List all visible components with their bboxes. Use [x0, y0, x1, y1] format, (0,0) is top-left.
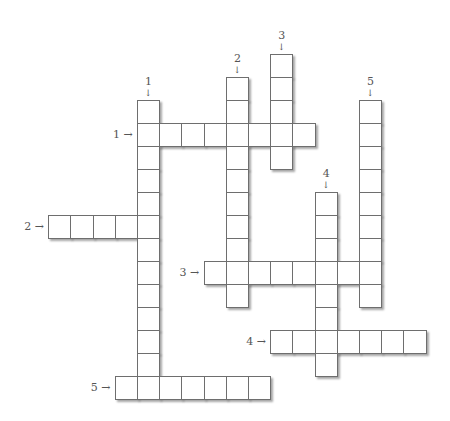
crossword-cell-input[interactable]: [270, 77, 293, 101]
crossword-cell-input[interactable]: [137, 238, 160, 262]
crossword-cell-input[interactable]: [359, 100, 382, 124]
crossword-cell-input[interactable]: [315, 284, 338, 308]
crossword-cell-input[interactable]: [137, 330, 160, 354]
crossword-cell-input[interactable]: [226, 169, 249, 193]
crossword-cell-input[interactable]: [159, 123, 182, 147]
crossword-cell-input[interactable]: [93, 215, 116, 239]
crossword-cell-input[interactable]: [204, 376, 227, 400]
crossword-cell-input[interactable]: [70, 215, 93, 239]
crossword-cell-input[interactable]: [270, 123, 293, 147]
crossword-cell-input[interactable]: [115, 215, 138, 239]
crossword-cell-input[interactable]: [137, 284, 160, 308]
down-arrow-icon: ↓: [233, 66, 241, 75]
across-clue-number-1: 1 →: [113, 129, 133, 140]
crossword-cell-input[interactable]: [359, 215, 382, 239]
crossword-cell-input[interactable]: [226, 192, 249, 216]
crossword-cell-input[interactable]: [204, 123, 227, 147]
down-arrow-icon: ↓: [145, 89, 153, 98]
crossword-cell-input[interactable]: [359, 238, 382, 262]
crossword-cell-input[interactable]: [48, 215, 71, 239]
across-clue-number-4: 4 →: [246, 336, 266, 347]
crossword-cell-input[interactable]: [315, 353, 338, 377]
crossword-cell-input[interactable]: [137, 353, 160, 377]
crossword-cell-input[interactable]: [315, 261, 338, 285]
crossword-cell-input[interactable]: [359, 284, 382, 308]
across-clue-number-3: 3 →: [180, 267, 200, 278]
crossword-cell-input[interactable]: [226, 146, 249, 170]
down-clue-number-1: 1: [145, 76, 152, 87]
crossword-cell-input[interactable]: [270, 146, 293, 170]
crossword-cell-input[interactable]: [137, 376, 160, 400]
across-clue-number-5: 5 →: [91, 382, 111, 393]
crossword-cell-input[interactable]: [359, 146, 382, 170]
crossword-cell-input[interactable]: [337, 261, 360, 285]
crossword-cell-input[interactable]: [181, 376, 204, 400]
crossword-cell-input[interactable]: [137, 307, 160, 331]
crossword-cell-input[interactable]: [315, 307, 338, 331]
crossword-cell-input[interactable]: [248, 261, 271, 285]
crossword-cell-input[interactable]: [359, 169, 382, 193]
crossword-cell-input[interactable]: [226, 284, 249, 308]
crossword-cell-input[interactable]: [137, 261, 160, 285]
crossword-cell-input[interactable]: [359, 192, 382, 216]
crossword-cell-input[interactable]: [359, 261, 382, 285]
crossword-cell-input[interactable]: [226, 123, 249, 147]
down-arrow-icon: ↓: [367, 89, 375, 98]
crossword-cell-input[interactable]: [137, 169, 160, 193]
crossword-cell-input[interactable]: [315, 330, 338, 354]
crossword-cell-input[interactable]: [292, 261, 315, 285]
crossword-cell-input[interactable]: [337, 330, 360, 354]
crossword-cell-input[interactable]: [137, 192, 160, 216]
down-arrow-icon: ↓: [278, 43, 286, 52]
crossword-cell-input[interactable]: [137, 100, 160, 124]
crossword-cell-input[interactable]: [181, 123, 204, 147]
crossword-cell-input[interactable]: [204, 261, 227, 285]
crossword-cell-input[interactable]: [403, 330, 426, 354]
crossword-cell-input[interactable]: [359, 123, 382, 147]
across-clue-number-2: 2 →: [24, 221, 44, 232]
crossword-cell-input[interactable]: [270, 54, 293, 78]
crossword-cell-input[interactable]: [270, 330, 293, 354]
crossword-cell-input[interactable]: [226, 376, 249, 400]
crossword-cell-input[interactable]: [159, 376, 182, 400]
crossword-cell-input[interactable]: [248, 376, 271, 400]
crossword-cell-input[interactable]: [248, 123, 271, 147]
crossword-cell-input[interactable]: [292, 123, 315, 147]
down-clue-number-3: 3: [278, 30, 285, 41]
crossword-cell-input[interactable]: [226, 100, 249, 124]
down-clue-number-2: 2: [234, 53, 241, 64]
down-clue-number-4: 4: [323, 168, 330, 179]
crossword-cell-input[interactable]: [137, 146, 160, 170]
crossword-cell-input[interactable]: [315, 215, 338, 239]
crossword-cell-input[interactable]: [137, 123, 160, 147]
crossword-cell-input[interactable]: [315, 238, 338, 262]
crossword-cell-input[interactable]: [270, 100, 293, 124]
crossword-cell-input[interactable]: [381, 330, 404, 354]
crossword-board: 1 →2 →3 →4 →5 →1↓2↓3↓4↓5↓: [0, 0, 450, 421]
crossword-cell-input[interactable]: [359, 330, 382, 354]
crossword-cell-input[interactable]: [292, 330, 315, 354]
crossword-cell-input[interactable]: [226, 238, 249, 262]
crossword-cell-input[interactable]: [315, 192, 338, 216]
crossword-cell-input[interactable]: [226, 215, 249, 239]
crossword-cell-input[interactable]: [137, 215, 160, 239]
down-clue-number-5: 5: [367, 76, 374, 87]
down-arrow-icon: ↓: [322, 181, 330, 190]
crossword-cell-input[interactable]: [270, 261, 293, 285]
crossword-cell-input[interactable]: [226, 77, 249, 101]
crossword-cell-input[interactable]: [115, 376, 138, 400]
crossword-cell-input[interactable]: [226, 261, 249, 285]
